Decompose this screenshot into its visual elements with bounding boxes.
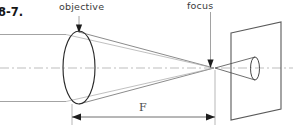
objective-label: objective — [59, 1, 104, 12]
converging-ray-upper — [79, 32, 214, 68]
marginal-ray-upper — [66, 35, 214, 69]
diverging-ray-lower — [215, 68, 255, 80]
focus-label: focus — [187, 0, 213, 11]
converging-ray-lower — [79, 68, 214, 104]
figure-number: 8-7. — [0, 5, 23, 19]
dimension-arrowhead-left — [72, 114, 81, 121]
focal-length-label: F — [139, 101, 147, 114]
objective-lens — [63, 31, 95, 104]
light-cone-spot — [251, 57, 260, 80]
projection-screen — [231, 22, 281, 120]
figure-container: 8-7. objective focus F — [0, 0, 293, 133]
diverging-ray-upper — [215, 57, 255, 68]
dimension-arrowhead-right — [206, 114, 215, 121]
